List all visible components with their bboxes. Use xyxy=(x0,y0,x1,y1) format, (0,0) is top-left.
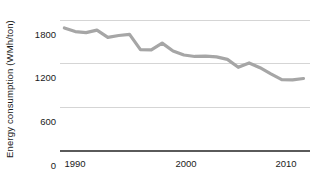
y-tick-label: 1800 xyxy=(4,30,56,40)
series-line-energy-consumption xyxy=(60,14,310,156)
y-axis-tick-labels: 1800 1200 600 0 xyxy=(0,14,56,156)
y-tick-label: 1200 xyxy=(4,73,56,83)
y-tick-label: 600 xyxy=(4,117,56,127)
x-tick-label: 1990 xyxy=(45,159,105,169)
plot-area xyxy=(60,14,310,156)
x-axis-tick-labels: 1990 2000 2010 xyxy=(60,159,310,173)
x-tick-label: 2010 xyxy=(256,159,316,169)
x-tick-label: 2000 xyxy=(156,159,216,169)
line-chart: Energy consumption (WMh/ton) 1800 1200 6… xyxy=(0,0,320,178)
